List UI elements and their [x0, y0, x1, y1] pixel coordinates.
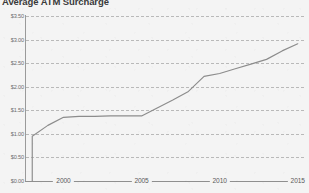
y-axis-tick-label: $3.50: [0, 13, 24, 19]
y-axis-tick-label: $2.50: [0, 60, 24, 66]
y-axis-line: [25, 15, 26, 182]
y-axis-tick-label: $1.00: [0, 131, 24, 137]
y-axis-tick-label: $3.00: [0, 37, 24, 43]
y-axis-tick-label: $0.50: [0, 154, 24, 160]
y-axis-tick-labels: $0.00$0.50$1.00$1.50$2.00$2.50$3.00$3.50: [0, 16, 24, 181]
plot-area: [26, 16, 304, 181]
chart-container: Average ATM Surcharge $0.00$0.50$1.00$1.…: [0, 0, 309, 193]
y-axis-tick-label: $0.00: [0, 178, 24, 184]
series-line-average-atm-surcharge: [32, 44, 298, 181]
x-axis-tick-label: 2005: [131, 176, 151, 185]
y-axis-tick-label: $2.00: [0, 84, 24, 90]
chart-title: Average ATM Surcharge: [2, 0, 109, 7]
x-axis-tick-label: 2000: [53, 176, 73, 185]
x-axis-tick-label: 2010: [210, 176, 230, 185]
x-axis-tick-label: 2015: [288, 176, 308, 185]
y-axis-tick-label: $1.50: [0, 107, 24, 113]
series-line-chart: [26, 16, 304, 181]
